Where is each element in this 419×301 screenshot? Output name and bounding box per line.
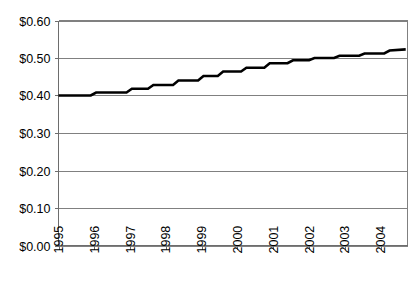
y-tick-label: $0.40	[19, 89, 50, 103]
y-tick-label: $0.50	[19, 52, 50, 66]
x-tick-label: 1997	[124, 226, 138, 254]
y-tick-label: $0.20	[19, 165, 50, 179]
x-tick-label: 2002	[303, 226, 317, 254]
x-tick-label: 1995	[52, 226, 66, 254]
line-chart: $0.00$0.10$0.20$0.30$0.40$0.50$0.60 1995…	[0, 0, 419, 301]
x-tick-label: 1999	[195, 226, 209, 254]
y-tick-label: $0.10	[19, 202, 50, 216]
x-tick-label: 2001	[267, 226, 281, 254]
chart-background	[0, 0, 419, 301]
x-tick-label: 1996	[88, 226, 102, 254]
x-tick-label: 2004	[374, 226, 388, 254]
x-tick-label: 2000	[231, 226, 245, 254]
y-tick-label: $0.00	[19, 240, 50, 254]
y-tick-label: $0.60	[19, 15, 50, 29]
x-tick-label: 1998	[159, 226, 173, 254]
x-tick-label: 2003	[338, 226, 352, 254]
chart-container: $0.00$0.10$0.20$0.30$0.40$0.50$0.60 1995…	[0, 0, 419, 301]
y-tick-label: $0.30	[19, 127, 50, 141]
